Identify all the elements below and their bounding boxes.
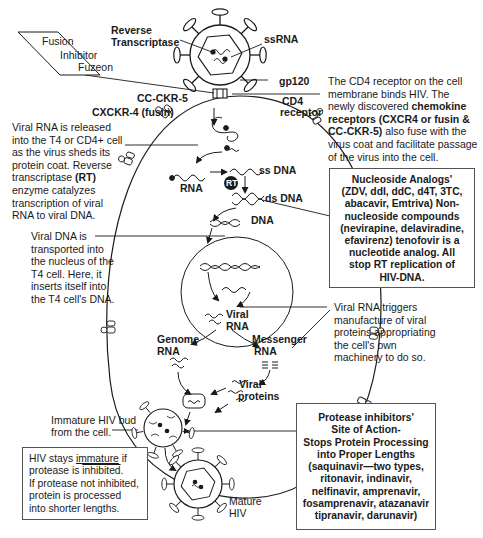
note-line: Viral RNA triggers [334,301,436,314]
box-line: nucleoside compounds [330,211,474,223]
nucleoside-analogs-box: Nucleoside Analogs' (ZDV, ddI, ddC, d4T,… [329,168,475,288]
uncoating-virus [170,108,264,242]
box-text-overlined: inhibited [82,465,120,476]
fusion-label-2: Inhibitor [60,49,97,61]
box-line: If protease not inhibited, [29,478,147,490]
note-line: into the T4 or CD4+ cell [12,134,122,147]
label-ds-dna: ds DNA [265,192,303,204]
note-line: proteins appropriating [334,326,436,339]
cd4-note-text: newly discovered [328,100,411,112]
mature-hiv-virion [162,448,234,520]
cd4-note-text: also fuse with the [382,125,466,137]
label-viral-rna-2: RNA [226,320,249,332]
cd4-note-line: CC-CKR-5) also fuse with the [328,125,477,138]
box-line: protease is inhibited. [29,465,147,477]
note-line: the T4 cell's DNA. [31,293,115,306]
note-line: enzyme catalyzes [12,184,122,197]
cd4-receptor-note: The CD4 receptor on the cell membrane bi… [328,75,477,163]
label-reverse-transcriptase-1: Reverse [111,24,152,36]
label-reverse-transcriptase-2: Transcriptase [111,36,179,48]
label-genome-rna-1: Genome [157,333,199,345]
box-text: protease is [29,465,82,476]
label-ss-dna: ss DNA [259,164,296,176]
note-line: Viral RNA is released [12,121,122,134]
note-bold: (RT) [75,171,96,183]
label-rt: RT [226,177,237,189]
label-viral-proteins-1: Viral [239,378,262,390]
box-line: Nucleoside Analogs' [330,174,474,186]
box-line: Stops Protein Processing [297,437,435,449]
box-line: fosamprenavir, atazanavir [297,498,435,510]
bud-note-2: from the cell. [51,426,111,438]
label-genome-rna-2: RNA [157,345,180,357]
note-line: T4 cell. Here, it [31,268,115,281]
box-line: (saquinavir—two types, [297,461,435,473]
box-line: (ZDV, ddI, ddC, d4T, 3TC, [330,186,474,198]
fusion-label-1: Fusion [42,35,74,47]
note-line: transported into [31,243,115,256]
cd4-note-line: The CD4 receptor on the cell [328,75,477,88]
box-line: (nevirapine, delaviradine, [330,223,474,235]
note-line: transcriptase (RT) [12,171,122,184]
box-line: HIV-DNA. [330,272,474,284]
note-line: the nucleus of the [31,255,115,268]
box-line: Site of Action- [297,424,435,436]
label-messenger-rna-2: RNA [254,345,277,357]
box-line: into shorter lengths. [29,503,147,515]
box-text: . [121,465,124,476]
label-viral-rna-1: Viral [226,308,249,320]
label-messenger-rna-1: Messenger [252,333,307,345]
note-line: manufacture of viral [334,314,436,327]
note-line: the cell's own [334,339,436,352]
note-line: Viral DNA is [31,230,115,243]
cd4-note-line: membrane binds HIV. The [328,88,477,101]
label-cd4-2: receptor [280,106,322,118]
box-text-underlined: immature [76,453,119,464]
box-line: stop RT replication of [330,259,474,271]
immature-hiv-box: HIV stays immature if protease is inhibi… [22,447,148,520]
label-rna: RNA [180,182,203,194]
note-line: transcription of viral [12,197,122,210]
note-line: inserts itself into [31,280,115,293]
box-line: Protease inhibitors' [297,412,435,424]
viral-rna-release-note: Viral RNA is released into the T4 or CD4… [12,121,122,222]
cd4-note-bold: chemokine [411,100,466,112]
protease-inhibitors-box: Protease inhibitors' Site of Action- Sto… [296,403,436,530]
note-text: transcriptase [12,171,75,183]
box-line: abacavir, Emtriva) Non- [330,198,474,210]
note-line: as the virus sheds its [12,146,122,159]
box-line: nucleotide analog. All [330,247,474,259]
label-viral-proteins-2: proteins [238,390,279,402]
note-line: protein coat. Reverse [12,159,122,172]
note-line: machinery to do so. [334,351,436,364]
box-line: efavirenz) tenofovir is a [330,235,474,247]
cd4-note-line: of the virus into the cell. [328,151,477,164]
cd4-note-line: newly discovered chemokine [328,100,477,113]
box-line: nelfinavir, amprenavir, [297,486,435,498]
box-line: tipranavir, darunavir) [297,510,435,522]
label-ssrna: ssRNA [264,33,298,45]
fusion-label-3: Fuzeon [78,61,113,73]
note-line: RNA to viral DNA. [12,209,122,222]
box-text: if [119,453,127,464]
cd4-note-bold: CC-CKR-5) [328,125,382,137]
box-line: ritonavir, indinavir, [297,473,435,485]
label-dna: DNA [251,214,274,226]
label-cc-ckr5: CC-CKR-5 [137,92,188,104]
box-line: into Proper Lengths [297,449,435,461]
bud-note-1: Immature HIV bud [51,414,136,426]
label-gp120: gp120 [279,75,309,87]
hiv-virion-top [174,9,266,94]
label-mature-1: Mature [229,495,262,507]
box-text: HIV stays [29,453,76,464]
cd4-note-line: virus coat and facilitate passage [328,138,477,151]
viral-dna-transport-note: Viral DNA is transported into the nucleu… [31,230,115,306]
viral-rna-triggers-note: Viral RNA triggers manufacture of viral … [334,301,436,364]
box-line: HIV stays immature if [29,453,147,465]
cd4-note-line: receptors (CXCR4 or fusin & [328,113,477,126]
fusion-site [213,89,227,98]
box-line: protein is processed [29,490,147,502]
label-cxckr4: CXCKR-4 (fusin) [92,106,174,118]
label-mature-2: HIV [229,507,247,519]
